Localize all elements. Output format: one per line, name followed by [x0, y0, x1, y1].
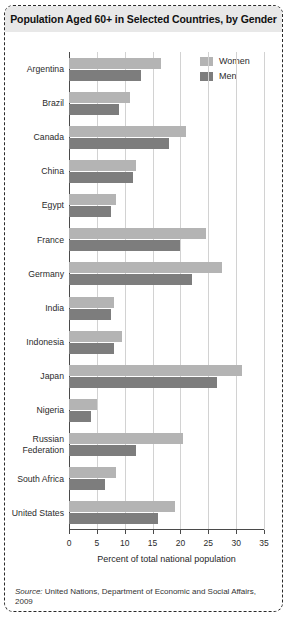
bar-men [69, 240, 180, 251]
bar-women [69, 228, 206, 239]
category-label-line: Argentina [27, 64, 64, 75]
category-label: RussianFederation [22, 433, 64, 456]
tick-label-20: 20 [176, 538, 185, 548]
bar-group: Nigeria [69, 399, 264, 422]
category-label-line: Russian [33, 434, 64, 445]
bar-women [69, 399, 97, 410]
category-label-line: South Africa [17, 474, 64, 485]
category-label: Indonesia [26, 331, 64, 354]
x-axis-line [69, 529, 264, 530]
category-label-line: France [37, 235, 64, 246]
source-prefix: Source: [15, 587, 43, 596]
category-label: South Africa [17, 467, 64, 490]
tick-15 [153, 530, 154, 534]
gridline-0 [69, 52, 70, 530]
category-label-line: China [41, 166, 64, 177]
bar-group: Canada [69, 126, 264, 149]
category-label-line: Japan [40, 371, 64, 382]
bar-men [69, 172, 133, 183]
category-label-line: Nigeria [36, 405, 64, 416]
chart-figure: Population Aged 60+ in Selected Countrie… [4, 5, 283, 612]
category-label: Argentina [27, 58, 64, 81]
bar-men [69, 309, 111, 320]
bar-men [69, 274, 192, 285]
plot-area: Women Men ArgentinaBrazilCanadaChinaEgyp… [5, 32, 282, 611]
gridline-15 [153, 52, 154, 530]
category-label-line: Egypt [42, 200, 64, 211]
source-note: Source: United Nations, Department of Ec… [15, 587, 268, 607]
gridline-10 [125, 52, 126, 530]
bar-men [69, 377, 217, 388]
tick-label-0: 0 [67, 538, 72, 548]
category-label: Germany [28, 262, 64, 285]
bar-men [69, 411, 91, 422]
x-axis-label: Percent of total national population [69, 554, 264, 564]
bar-group: India [69, 297, 264, 320]
category-label-line: Germany [28, 269, 64, 280]
category-label: Nigeria [36, 399, 64, 422]
bar-men [69, 138, 169, 149]
gridline-5 [97, 52, 98, 530]
category-label-line: United States [12, 508, 64, 519]
tick-35 [264, 530, 265, 534]
page-title: Population Aged 60+ in Selected Countrie… [10, 13, 277, 25]
tick-0 [69, 530, 70, 534]
tick-label-15: 15 [148, 538, 157, 548]
gridline-25 [208, 52, 209, 530]
category-label: India [45, 297, 64, 320]
tick-label-10: 10 [120, 538, 129, 548]
tick-label-35: 35 [259, 538, 268, 548]
bar-men [69, 513, 158, 524]
bar-group: Japan [69, 365, 264, 388]
category-label-line: Canada [34, 132, 64, 143]
bar-women [69, 92, 130, 103]
tick-5 [97, 530, 98, 534]
tick-label-30: 30 [231, 538, 240, 548]
bar-men [69, 343, 114, 354]
bar-group: South Africa [69, 467, 264, 490]
category-label: Japan [40, 365, 64, 388]
x-axis-gridlines [69, 52, 264, 530]
bar-chart: ArgentinaBrazilCanadaChinaEgyptFranceGer… [69, 52, 264, 530]
bar-group: Argentina [69, 58, 264, 81]
bar-women [69, 58, 161, 69]
tick-10 [125, 530, 126, 534]
bar-women [69, 501, 175, 512]
bar-men [69, 104, 119, 115]
tick-25 [208, 530, 209, 534]
tick-label-25: 25 [204, 538, 213, 548]
bar-women [69, 433, 183, 444]
category-label: Egypt [42, 194, 64, 217]
category-label-line: Brazil [42, 98, 64, 109]
bar-women [69, 160, 136, 171]
gridline-35 [264, 52, 265, 530]
category-label: United States [12, 501, 64, 524]
bar-men [69, 206, 111, 217]
bar-women [69, 331, 122, 342]
bar-women [69, 467, 116, 478]
bar-group: Indonesia [69, 331, 264, 354]
bar-group: Germany [69, 262, 264, 285]
category-label: Canada [34, 126, 64, 149]
category-label-line: India [45, 303, 64, 314]
category-label-line: Federation [22, 445, 64, 456]
bar-men [69, 445, 136, 456]
bar-men [69, 479, 105, 490]
category-label: Brazil [42, 92, 64, 115]
category-label: China [41, 160, 64, 183]
bar-women [69, 297, 114, 308]
bar-group: China [69, 160, 264, 183]
bar-women [69, 262, 222, 273]
tick-label-5: 5 [94, 538, 99, 548]
bar-women [69, 126, 186, 137]
bar-group: RussianFederation [69, 433, 264, 456]
category-label: France [37, 228, 64, 251]
bar-group: Egypt [69, 194, 264, 217]
category-label-line: Indonesia [26, 337, 64, 348]
bar-group: United States [69, 501, 264, 524]
bar-group: France [69, 228, 264, 251]
gridline-30 [236, 52, 237, 530]
gridline-20 [180, 52, 181, 530]
bar-group: Brazil [69, 92, 264, 115]
bar-women [69, 194, 116, 205]
